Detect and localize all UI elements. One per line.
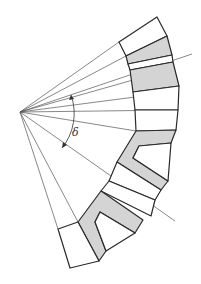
angle-label: δ (72, 126, 79, 139)
sheet-segments (58, 17, 179, 268)
angle-arc (62, 95, 74, 148)
arrow-head-top (69, 95, 74, 100)
development-diagram: δ (0, 0, 201, 284)
segment-white-4 (135, 110, 178, 131)
